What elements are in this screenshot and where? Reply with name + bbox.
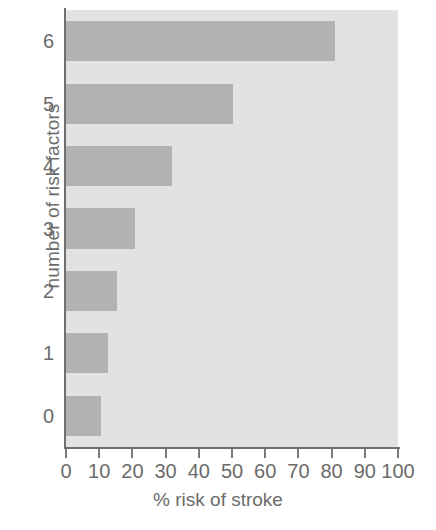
x-tick-mark-30 bbox=[165, 449, 167, 458]
x-tick-mark-10 bbox=[98, 449, 100, 458]
y-axis-tick-labels: 0123456 bbox=[20, 0, 54, 530]
y-tick-label-2: 2 bbox=[32, 279, 54, 302]
x-tick-mark-70 bbox=[297, 449, 299, 458]
x-tick-mark-80 bbox=[331, 449, 333, 458]
bar-5 bbox=[66, 84, 233, 124]
x-tick-label-40: 40 bbox=[188, 460, 210, 483]
y-tick-label-3: 3 bbox=[32, 217, 54, 240]
x-tick-mark-20 bbox=[131, 449, 133, 458]
y-tick-label-4: 4 bbox=[32, 155, 54, 178]
x-tick-mark-100 bbox=[397, 449, 399, 458]
x-tick-label-100: 100 bbox=[381, 460, 414, 483]
x-tick-label-0: 0 bbox=[60, 460, 71, 483]
x-tick-label-50: 50 bbox=[221, 460, 243, 483]
plot-area bbox=[66, 10, 398, 447]
bar-0 bbox=[66, 396, 101, 436]
y-tick-label-5: 5 bbox=[32, 92, 54, 115]
y-tick-label-1: 1 bbox=[32, 342, 54, 365]
x-tick-label-80: 80 bbox=[320, 460, 342, 483]
x-tick-mark-0 bbox=[65, 449, 67, 458]
bar-4 bbox=[66, 146, 172, 186]
x-tick-label-70: 70 bbox=[287, 460, 309, 483]
x-tick-mark-90 bbox=[364, 449, 366, 458]
y-tick-label-0: 0 bbox=[32, 404, 54, 427]
bar-2 bbox=[66, 271, 117, 311]
x-tick-label-30: 30 bbox=[154, 460, 176, 483]
x-tick-label-20: 20 bbox=[121, 460, 143, 483]
bar-6 bbox=[66, 21, 335, 61]
x-tick-label-10: 10 bbox=[88, 460, 110, 483]
x-tick-label-60: 60 bbox=[254, 460, 276, 483]
x-tick-label-90: 90 bbox=[354, 460, 376, 483]
x-tick-mark-40 bbox=[198, 449, 200, 458]
stroke-risk-bar-chart: number of risk factors 0123456 010203040… bbox=[0, 0, 436, 530]
x-tick-mark-60 bbox=[264, 449, 266, 458]
bar-3 bbox=[66, 208, 135, 248]
bar-1 bbox=[66, 333, 108, 373]
y-tick-label-6: 6 bbox=[32, 30, 54, 53]
x-tick-mark-50 bbox=[231, 449, 233, 458]
x-axis-title: % risk of stroke bbox=[0, 489, 436, 511]
